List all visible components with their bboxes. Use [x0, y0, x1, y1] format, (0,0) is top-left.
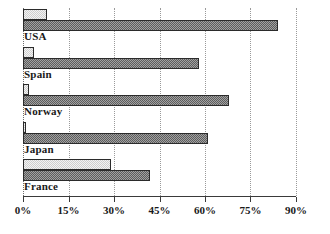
x-axis: 0% 15% 30% 45% 60% 75% 90%: [23, 196, 296, 197]
x-tick-label-45: 45%: [149, 204, 171, 216]
x-tick-0: [23, 197, 24, 202]
x-tick-30: [114, 197, 115, 202]
x-tick-label-15: 15%: [58, 204, 80, 216]
category-label-norway: Norway: [24, 105, 62, 118]
bar-group-spain: Spain: [23, 46, 296, 84]
x-tick-90: [296, 197, 297, 202]
x-tick-label-75: 75%: [239, 204, 261, 216]
bar-group-france: France: [23, 158, 296, 196]
bar-japan-light: [23, 122, 26, 133]
bar-france-light: [23, 159, 111, 170]
x-tick-label-60: 60%: [194, 204, 216, 216]
bar-chart: USA Spain Norway Japan France: [0, 0, 330, 234]
x-tick-15: [69, 197, 70, 202]
bar-usa-light: [23, 9, 47, 20]
x-tick-label-90: 90%: [285, 204, 307, 216]
x-tick-label-30: 30%: [103, 204, 125, 216]
x-tick-60: [205, 197, 206, 202]
x-tick-45: [160, 197, 161, 202]
x-tick-label-0: 0%: [15, 204, 32, 216]
bar-group-usa: USA: [23, 8, 296, 46]
x-tick-75: [250, 197, 251, 202]
category-label-japan: Japan: [24, 143, 54, 156]
gridline-90: [296, 8, 297, 196]
bar-group-japan: Japan: [23, 121, 296, 159]
bar-group-norway: Norway: [23, 83, 296, 121]
plot-area: USA Spain Norway Japan France: [23, 8, 296, 196]
bar-spain-light: [23, 47, 34, 58]
category-label-spain: Spain: [24, 68, 52, 81]
bar-norway-light: [23, 84, 29, 95]
bar-usa-dark: [23, 20, 278, 31]
category-label-usa: USA: [24, 30, 47, 43]
category-label-france: France: [24, 180, 58, 193]
